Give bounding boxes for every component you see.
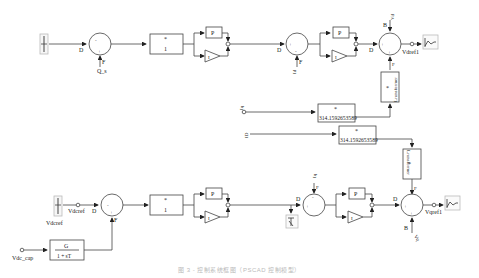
bottom-sum3-out-label: Vqref1: [425, 209, 442, 215]
bottom-sum1-fb-sign: +: [110, 210, 113, 215]
mult2-top: *: [355, 128, 358, 134]
top-transformer-label: Lransformer: [393, 77, 398, 102]
bottom-source-slider-icon[interactable]: [54, 196, 62, 216]
top-sum3-in-label: D: [369, 47, 374, 53]
mult2-bottom: 314.1592653589: [340, 137, 378, 143]
bottom-sum3-in-label: D: [393, 196, 398, 202]
top-sum2-fb-sign: -: [295, 49, 297, 54]
mult2-input-signal: ID: [244, 132, 249, 138]
bottom-pi2-p-label: P: [354, 191, 358, 197]
top-sum3-out-label: Vdref1: [402, 49, 419, 55]
bottom-sum3-bottom-label: B: [404, 225, 408, 231]
bottom-sum1-in-label: D: [92, 208, 97, 214]
top-transformer-value: *: [386, 85, 389, 91]
bottom-sum3-sign-left: +: [404, 204, 407, 209]
top-gain1-top: *: [164, 36, 167, 42]
top-sum1-in-sign: -: [95, 38, 97, 43]
top-sum1-in-label: D: [79, 47, 84, 53]
top-sum2-fb-label: F: [299, 59, 303, 65]
bottom-sum2-fb-sign: -: [312, 195, 314, 200]
bottom-gain1-bottom: 1: [164, 207, 167, 213]
bottom-sum2-fb-signal: Iq: [312, 173, 317, 178]
limiter-out-label: D: [296, 196, 301, 202]
top-sum3-top-label: B: [383, 22, 387, 28]
bottom-sum3-top-label: F: [414, 186, 417, 191]
top-pi1-p-label: P: [211, 30, 215, 36]
top-sum3-top-signal: Vd: [390, 13, 395, 20]
top-sum2-in-sign: +: [289, 42, 292, 47]
bottom-transformer-label: Lransformer: [406, 150, 411, 175]
bottom-sum1-fb-label: F: [114, 217, 118, 223]
bottom-sum1-in-sign: -: [107, 203, 109, 208]
bottom-scope-graph-icon[interactable]: [445, 196, 460, 210]
filter-denominator: 1 + sT: [57, 253, 72, 259]
bottom-sum2-fb-label: F: [316, 185, 319, 190]
bottom-sum3-sign-bottom: +: [410, 211, 413, 216]
block-diagram: D - + F Q_s * 1 P I D + - F Id P I D + +…: [0, 0, 479, 278]
top-pi1-i-label: I: [208, 55, 210, 60]
filter-input-signal: Vdc_cap: [12, 255, 33, 261]
top-scope-graph-icon[interactable]: [423, 35, 438, 49]
bottom-gain1-top: *: [164, 197, 167, 203]
top-pi2-p-label: P: [338, 30, 342, 36]
mult1-bottom: 314.15926535​89: [319, 115, 357, 121]
bottom-transformer-block: [403, 149, 421, 179]
bottom-source-label: Vdcref: [46, 220, 63, 226]
top-sum3-sign-left: +: [381, 42, 384, 47]
bottom-pi2-i-label: I: [351, 216, 353, 221]
top-pi2-i-label: I: [335, 55, 337, 60]
top-sum3-sign-bottom: +: [388, 50, 391, 55]
top-sum1-fb-signal: Q_s: [97, 68, 107, 74]
top-sum1-fb-sign: +: [98, 49, 101, 54]
top-sum3-bottom-label: F: [392, 62, 395, 67]
bottom-sum2-in-sign: +: [306, 204, 309, 209]
top-sum2-fb-signal: Id: [292, 69, 297, 74]
mult1-input-signal: Iq: [239, 105, 244, 110]
top-source-slider-icon[interactable]: [40, 34, 48, 54]
bottom-source-node-label: Vdcref: [68, 208, 85, 214]
mult1-top: *: [334, 106, 337, 112]
bottom-pi1-p-label: P: [211, 191, 215, 197]
bottom-sum3-bottom-signal: Vq: [413, 234, 421, 242]
limiter-icon[interactable]: [286, 215, 298, 228]
bottom-pi1-i-label: I: [208, 216, 210, 221]
top-sum1-fb-label: F: [102, 59, 106, 65]
figure-caption: 图 3 - 控制系统框图（PSCAD 控制模型）: [0, 265, 479, 274]
top-gain1-bottom: 1: [164, 46, 167, 52]
filter-numerator: G: [64, 243, 69, 249]
top-sum2-in-label: D: [277, 47, 282, 53]
